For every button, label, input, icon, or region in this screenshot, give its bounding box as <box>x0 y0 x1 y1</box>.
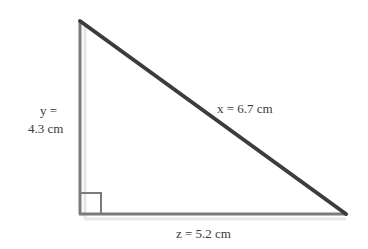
side-y-label-line2: 4.3 cm <box>28 121 63 136</box>
side-z-label: z = 5.2 cm <box>176 226 231 241</box>
side-y-label-line1: y = <box>40 103 57 118</box>
right-angle-marker <box>80 193 101 214</box>
side-x-label: x = 6.7 cm <box>217 101 273 116</box>
right-triangle-diagram: y = 4.3 cm x = 6.7 cm z = 5.2 cm <box>0 0 368 249</box>
side-x-hypotenuse <box>80 21 346 214</box>
